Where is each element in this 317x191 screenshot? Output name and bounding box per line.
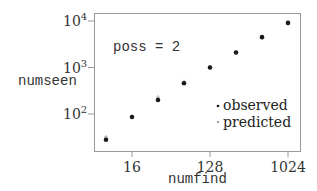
legend-predicted-label: predicted xyxy=(223,114,291,130)
observed-point xyxy=(130,115,135,120)
y-tick-label: 102 xyxy=(63,104,87,122)
legend-observed-label: observed xyxy=(223,97,288,113)
x-axis-label: numfind xyxy=(168,171,227,187)
legend-observed-marker xyxy=(217,105,220,108)
observed-point xyxy=(260,35,265,40)
observed-point xyxy=(208,65,213,70)
legend: observed predicted xyxy=(217,97,291,130)
observed-point xyxy=(182,81,187,86)
annotation: poss = 2 xyxy=(113,39,180,55)
y-axis: 102103104 xyxy=(63,11,94,122)
x-tick-label: 1024 xyxy=(270,159,306,175)
plot-frame xyxy=(95,14,301,152)
y-tick-label: 104 xyxy=(63,11,87,29)
observed-point xyxy=(156,98,161,103)
chart: 102103104 161281024 poss = 2 numseen num… xyxy=(0,0,317,191)
y-axis-label: numseen xyxy=(18,73,77,89)
x-tick-label: 16 xyxy=(123,159,141,175)
observed-point xyxy=(104,137,109,142)
legend-predicted-marker xyxy=(217,121,220,124)
observed-point xyxy=(286,21,291,26)
observed-point xyxy=(234,50,239,55)
